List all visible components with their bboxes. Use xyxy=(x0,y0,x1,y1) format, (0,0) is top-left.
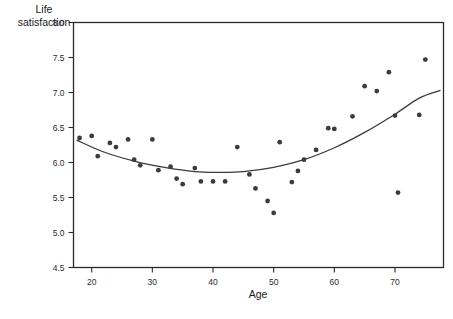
data-point xyxy=(396,190,401,195)
data-point xyxy=(192,166,197,171)
data-point xyxy=(235,145,240,150)
y-tick-label: 7.5 xyxy=(53,53,65,63)
y-tick-label: 7.0 xyxy=(53,88,65,98)
y-tick-label: 6.0 xyxy=(53,158,65,168)
data-point xyxy=(89,134,94,139)
data-point xyxy=(247,172,252,177)
scatter-chart: Life satisfaction 8.07.57.06.56.05.55.04… xyxy=(0,0,453,319)
data-point xyxy=(77,136,82,141)
data-point xyxy=(265,199,270,204)
x-tick-label: 70 xyxy=(390,277,400,287)
data-point xyxy=(302,157,307,162)
data-point xyxy=(114,145,119,150)
data-point xyxy=(296,169,301,174)
data-point xyxy=(277,140,282,145)
data-point xyxy=(332,126,337,131)
data-point xyxy=(174,176,179,181)
data-point xyxy=(107,141,112,146)
data-point xyxy=(423,57,428,62)
data-point xyxy=(326,126,331,131)
x-tick-label: 20 xyxy=(87,277,97,287)
x-tick-label: 40 xyxy=(208,277,218,287)
data-point xyxy=(95,154,100,159)
data-point xyxy=(211,179,216,184)
data-point xyxy=(168,164,173,169)
x-tick-label: 60 xyxy=(330,277,340,287)
data-point xyxy=(132,157,137,162)
data-point xyxy=(362,84,367,89)
chart-background xyxy=(0,0,453,319)
data-point xyxy=(289,180,294,185)
y-tick-label: 5.0 xyxy=(53,228,65,238)
data-point xyxy=(393,113,398,118)
y-tick-label: 6.5 xyxy=(53,123,65,133)
data-point xyxy=(180,182,185,187)
data-point xyxy=(138,163,143,168)
x-axis-label: Age xyxy=(249,288,268,300)
y-tick-label: 8.0 xyxy=(53,18,65,28)
data-point xyxy=(253,186,258,191)
y-axis-label-line1: Life xyxy=(36,3,53,15)
data-point xyxy=(150,137,155,142)
data-point xyxy=(314,148,319,153)
y-tick-label: 4.5 xyxy=(53,263,65,273)
data-point xyxy=(198,179,203,184)
y-tick-label: 5.5 xyxy=(53,193,65,203)
data-point xyxy=(223,179,228,184)
data-point xyxy=(387,70,392,75)
x-tick-label: 50 xyxy=(269,277,279,287)
data-point xyxy=(417,113,422,118)
data-point xyxy=(126,137,131,142)
data-point xyxy=(350,114,355,119)
data-point xyxy=(156,168,161,173)
data-point xyxy=(374,89,379,94)
data-point xyxy=(271,211,276,216)
x-tick-label: 30 xyxy=(148,277,158,287)
